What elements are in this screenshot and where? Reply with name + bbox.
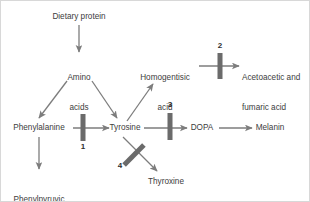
- node-homogentisic-line1: Homogentisic: [125, 73, 205, 83]
- node-melanin: Melanin: [247, 123, 293, 133]
- node-phenylpyruvic-line1: Phenylpyruvic: [1, 195, 77, 202]
- node-thyroxine: Thyroxine: [141, 177, 191, 187]
- node-dopa: DOPA: [179, 123, 225, 133]
- block-1-number: 1: [77, 142, 89, 151]
- block-4-number: 4: [114, 161, 126, 170]
- node-phenylpyruvic-acid: Phenylpyruvic acid: [1, 175, 77, 202]
- node-acetoacetic-line2: fumaric acid: [242, 103, 310, 113]
- metabolic-pathway-diagram: Dietary protein Amino acids Phenylalanin…: [0, 0, 310, 202]
- node-amino-acids-line1: Amino: [49, 73, 109, 83]
- node-amino-acids: Amino acids: [49, 53, 109, 133]
- edge-tyrosine-to-thyroxine: [123, 137, 157, 171]
- block-2-bar: [218, 53, 223, 79]
- block-3-number: 3: [164, 100, 176, 109]
- node-homogentisic-acid: Homogentisic acid: [125, 53, 205, 133]
- block-2-number: 2: [214, 41, 226, 50]
- node-acetoacetic-fumaric-acid: Acetoacetic and fumaric acid: [242, 53, 310, 133]
- node-amino-acids-line2: acids: [49, 103, 109, 113]
- node-phenylalanine: Phenylalanine: [1, 123, 77, 133]
- node-dietary-protein: Dietary protein: [29, 12, 129, 22]
- node-acetoacetic-line1: Acetoacetic and: [242, 73, 310, 83]
